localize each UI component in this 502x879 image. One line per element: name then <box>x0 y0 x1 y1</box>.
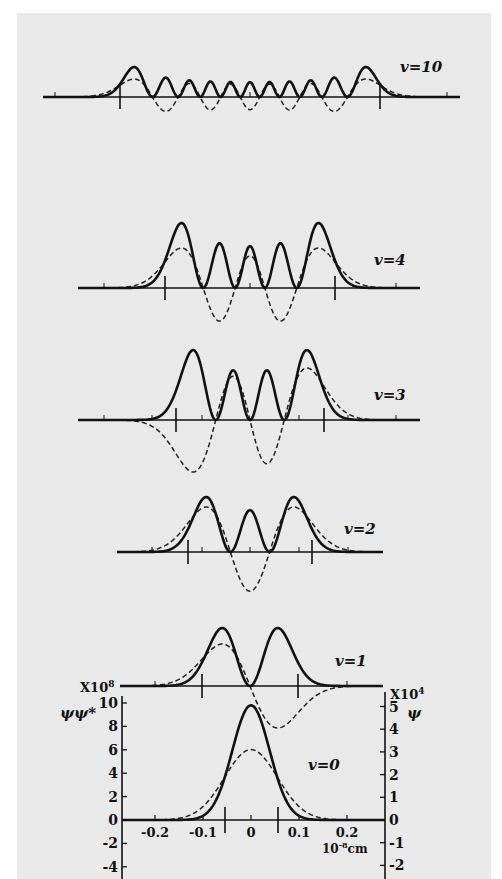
right-tick-label: 3 <box>389 744 399 760</box>
right-tick-label: -2 <box>389 857 405 873</box>
x-tick-label: 0.2 <box>336 825 359 840</box>
panel-v0 <box>122 692 385 879</box>
label-v0: v=0 <box>308 756 340 774</box>
right-tick-label: 1 <box>389 789 399 805</box>
right-tick-label: 0 <box>389 812 399 828</box>
left-tick-label: -4 <box>102 859 118 875</box>
left-axis-multiplier: X108 <box>80 679 114 695</box>
left-tick-label: 2 <box>108 789 118 805</box>
x-tick-label: 0.1 <box>288 825 311 840</box>
right-tick-label: 2 <box>389 767 399 783</box>
right-axis-title: ψ <box>407 704 422 722</box>
left-tick-label: 10 <box>99 695 119 711</box>
x-tick-label: -0.1 <box>189 825 217 840</box>
panel-v4 <box>78 223 420 321</box>
psi-squared-curve <box>78 350 420 420</box>
x-axis-tick-labels: -0.2-0.100.10.2 <box>141 825 358 840</box>
panel-v3 <box>78 350 420 472</box>
left-axis-title: ψψ* <box>60 704 96 722</box>
right-tick-label: -1 <box>389 835 405 851</box>
left-tick-label: 6 <box>108 742 118 758</box>
right-axis-tick-labels: 543210-1-2 <box>389 699 405 874</box>
panel-v10 <box>43 67 460 112</box>
left-axis-tick-labels: 1086420-2-4 <box>99 695 119 875</box>
left-tick-label: 4 <box>108 765 118 781</box>
panel-v2 <box>117 497 383 591</box>
x-tick-label: 0 <box>246 825 255 840</box>
left-tick-label: 8 <box>108 718 118 734</box>
psi-squared-curve <box>122 705 385 820</box>
label-v1: v=1 <box>335 652 367 670</box>
label-v10: v=10 <box>400 58 443 76</box>
label-v3: v=3 <box>374 386 406 404</box>
label-v4: v=4 <box>374 251 406 269</box>
psi-curve <box>122 750 385 820</box>
left-tick-label: 0 <box>108 812 118 828</box>
psi-squared-curve <box>43 67 460 97</box>
wavefunction-figure: v=10 v=4 v=3 v=2 v=1 v=0 X108 ψψ* X104 ψ… <box>0 0 502 879</box>
left-tick-label: -2 <box>102 835 118 851</box>
right-tick-label: 5 <box>389 699 399 715</box>
psi-curve <box>78 248 420 321</box>
x-axis-unit: 10-8cm <box>322 840 368 856</box>
panel-v1 <box>120 628 383 728</box>
right-tick-label: 4 <box>389 721 399 737</box>
x-tick-label: -0.2 <box>141 825 169 840</box>
label-v2: v=2 <box>344 520 376 538</box>
